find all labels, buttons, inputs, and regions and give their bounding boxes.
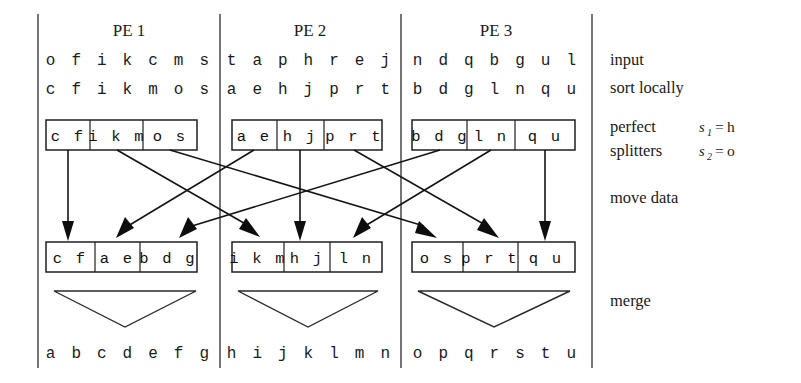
splitter-2-equals: = <box>715 142 724 159</box>
pe1-input: o f i k c m s <box>46 52 212 70</box>
splitter-1-equals: = <box>715 118 724 135</box>
input-row: o f i k c m s t a p h r e j n d q b g u … <box>46 52 579 70</box>
pe2-recv-cell-0: i k m <box>229 250 287 268</box>
pe1-recv-cell-1: a e <box>100 250 135 268</box>
pe1-split-cell-2: o s <box>153 128 188 146</box>
splitter-2-value: o <box>727 142 735 159</box>
parallel-sort-diagram: PE 1 PE 2 PE 3 o f i k c m s t a p h r e… <box>0 0 801 383</box>
pe2-title: PE 2 <box>294 21 327 40</box>
pe3-split-cell-1: l n <box>474 128 509 146</box>
pe3-recv-cell-2: q u <box>529 250 564 268</box>
pe3-split-cell-2: q u <box>528 128 563 146</box>
pe1-split-cell-0: c f <box>51 128 86 146</box>
pe1-recv-cell-2: b d g <box>139 250 197 268</box>
label-perfect: perfect <box>610 117 656 136</box>
pe2-split-cell-0: a e <box>237 128 272 146</box>
merged-output-row: a b c d e f g h i j k l m n o p q r s t … <box>46 345 579 363</box>
pe1-sorted: c f i k m o s <box>46 81 212 99</box>
pe2-merged: h i j k l m n <box>227 345 393 363</box>
pe2-recv-cell-2: l n <box>339 250 374 268</box>
splitter-1-symbol: s <box>699 119 705 135</box>
pe2-split-cell-1: h j <box>283 128 318 146</box>
pe3-input: n d q b g u l <box>413 52 579 70</box>
splitter-1-value: h <box>727 118 735 135</box>
pe2-recv-cell-1: h j <box>290 250 325 268</box>
sorted-row: c f i k m o s a e h j p r t b d g l n q … <box>46 81 579 99</box>
label-splitters: splitters <box>610 141 662 160</box>
pe1-split-cell-1: i k m <box>88 128 146 146</box>
pe3-split-cell-0: b d g <box>411 128 469 146</box>
label-merge: merge <box>610 291 651 310</box>
label-move-data: move data <box>610 188 679 207</box>
label-input: input <box>610 50 644 69</box>
pe2-split-cell-2: p r t <box>325 128 383 146</box>
pe3-recv-cell-0: o s <box>420 250 455 268</box>
pe1-recv-cell-0: c f <box>53 250 88 268</box>
splitter-2-subscript: 2 <box>707 151 712 162</box>
label-sort-locally: sort locally <box>610 78 685 97</box>
pe3-sorted: b d g l n q u <box>413 81 579 99</box>
pe1-merged: a b c d e f g <box>46 345 212 363</box>
pe3-recv-cell-1: p r t <box>461 250 519 268</box>
pe2-sorted: a e h j p r t <box>227 81 393 99</box>
pe2-input: t a p h r e j <box>227 52 393 70</box>
pe3-merged: o p q r s t u <box>413 345 579 363</box>
splitter-1-subscript: 1 <box>707 127 712 138</box>
pe1-title: PE 1 <box>113 21 146 40</box>
pe3-title: PE 3 <box>480 21 513 40</box>
splitter-2-symbol: s <box>699 143 705 159</box>
